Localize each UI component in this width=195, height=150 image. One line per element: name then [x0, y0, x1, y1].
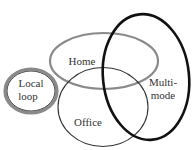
multi-mode-set: Multi- mode	[97, 10, 195, 144]
multi-mode-label-line2: mode	[151, 89, 176, 101]
multi-mode-ellipse	[97, 10, 195, 144]
multi-mode-label-line1: Multi-	[149, 76, 177, 88]
local-loop-set: Local loop	[5, 69, 57, 113]
venn-diagram: Local loop Home Office Multi- mode	[0, 0, 195, 150]
home-label: Home	[69, 55, 96, 67]
local-loop-label-line2: loop	[18, 90, 38, 102]
local-loop-label-line1: Local	[18, 77, 43, 89]
office-label: Office	[74, 116, 102, 128]
